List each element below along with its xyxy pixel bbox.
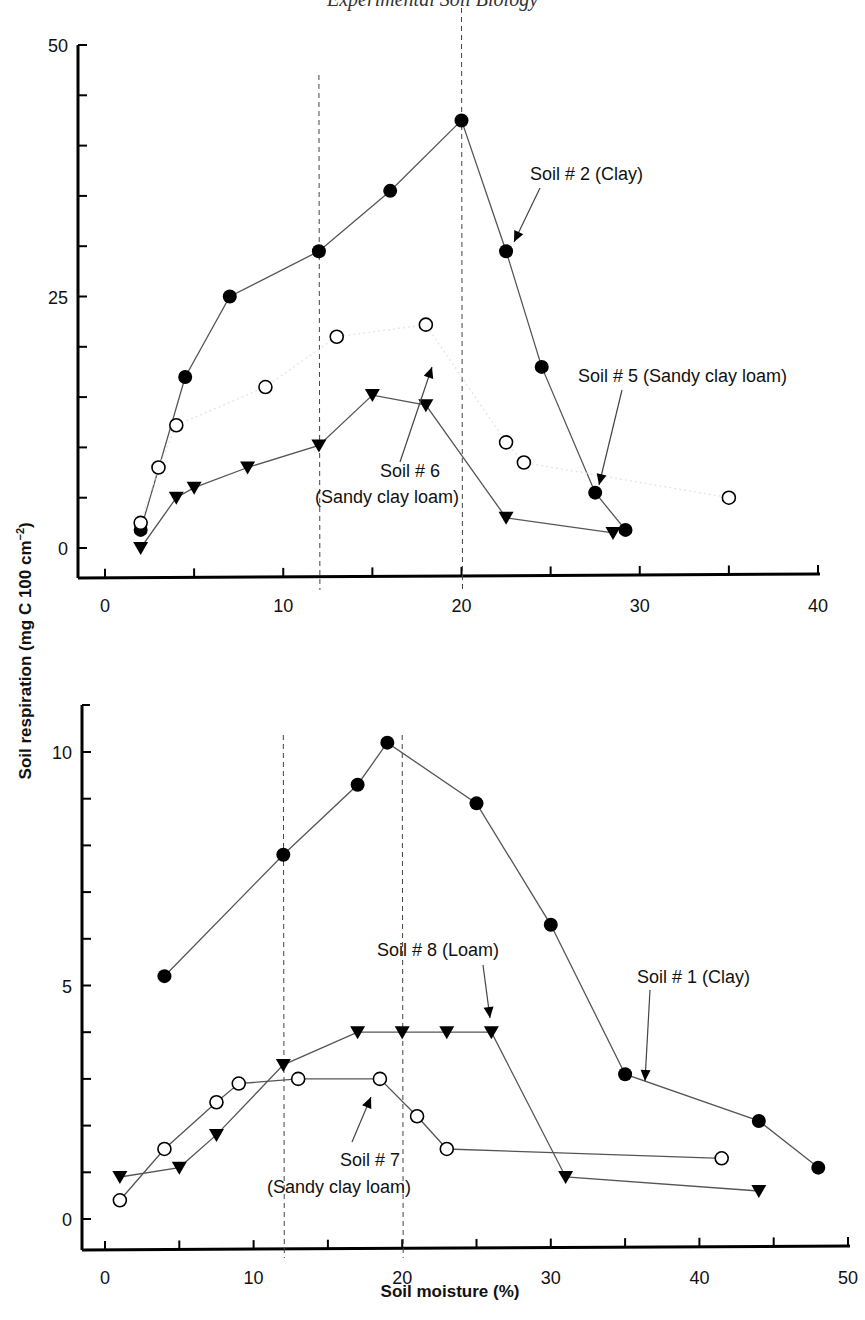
filled-circle-marker [223, 290, 237, 304]
panel-top-y-tick-label: 25 [48, 288, 68, 308]
panel-top-x-tick-label: 20 [451, 596, 471, 616]
x-axis-label: Soil moisture (%) [300, 1282, 600, 1302]
filled-circle-marker [499, 244, 513, 258]
panel-top-x-axis [78, 574, 820, 578]
open-circle-marker [440, 1142, 453, 1155]
panel-bottom-x-tick-label: 40 [689, 1268, 709, 1288]
open-circle-marker [715, 1152, 728, 1165]
figure: 02550010203040Soil # 2 (Clay)Soil # 5 (S… [0, 0, 865, 1320]
triangle-down-marker [112, 1171, 127, 1184]
filled-circle-marker [455, 113, 469, 127]
panel-bottom-annotation: Soil # 8 (Loam) [377, 940, 499, 960]
filled-circle-marker [157, 969, 171, 983]
y-axis-label: Soil respiration (mg C 100 cm−2) [14, 451, 36, 851]
panel-bottom-annotation: Soil # 1 (Clay) [637, 967, 750, 987]
filled-circle-marker [618, 1067, 632, 1081]
open-circle-marker [411, 1110, 424, 1123]
open-circle-marker [170, 419, 183, 432]
panel-top-y-tick-label: 0 [58, 539, 68, 559]
filled-circle-marker [312, 244, 326, 258]
triangle-down-marker [311, 439, 326, 452]
filled-circle-marker [380, 736, 394, 750]
panel-bottom-x-tick-label: 50 [838, 1268, 858, 1288]
panel-top-annotation: Soil # 2 (Clay) [530, 164, 643, 184]
open-circle-marker [210, 1096, 223, 1109]
arrowhead-icon [424, 367, 433, 379]
panel-bottom-series-line [120, 1032, 759, 1191]
filled-circle-marker [178, 370, 192, 384]
panel-top-y-tick-label: 50 [48, 36, 68, 56]
open-circle-marker [330, 330, 343, 343]
filled-circle-marker [811, 1161, 825, 1175]
open-circle-marker [722, 491, 735, 504]
panel-top-annotation: (Sandy clay loam) [315, 487, 459, 507]
triangle-down-marker [751, 1185, 766, 1198]
open-circle-marker [113, 1194, 126, 1207]
filled-circle-marker [383, 184, 397, 198]
arrowhead-icon [597, 473, 607, 485]
open-circle-marker [134, 516, 147, 529]
arrowhead-icon [484, 1006, 494, 1018]
triangle-down-marker [169, 492, 184, 505]
arrowhead-icon [641, 1070, 651, 1081]
open-circle-marker [259, 381, 272, 394]
panel-top-series-line [141, 395, 613, 548]
open-circle-marker [158, 1142, 171, 1155]
filled-circle-marker [588, 486, 602, 500]
panel-top-x-tick-label: 10 [273, 596, 293, 616]
open-circle-marker [373, 1072, 386, 1085]
open-circle-marker [152, 461, 165, 474]
filled-circle-marker [752, 1114, 766, 1128]
open-circle-marker [419, 318, 432, 331]
filled-circle-marker [535, 360, 549, 374]
triangle-down-marker [133, 542, 148, 555]
open-circle-marker [232, 1077, 245, 1090]
filled-circle-marker [544, 918, 558, 932]
panel-bottom-y-tick-label: 10 [52, 743, 72, 763]
open-circle-marker [500, 436, 513, 449]
panel-bottom-annotation: (Sandy clay loam) [267, 1177, 411, 1197]
annotation-arrow-line [645, 990, 650, 1081]
panel-bottom-y-tick-label: 0 [62, 1210, 72, 1230]
panel-bottom-x-tick-label: 10 [244, 1268, 264, 1288]
filled-circle-marker [618, 523, 632, 537]
panel-bottom-y-tick-label: 5 [62, 977, 72, 997]
filled-circle-marker [351, 778, 365, 792]
panel-top-x-tick-label: 30 [630, 596, 650, 616]
triangle-down-marker [240, 462, 255, 475]
filled-circle-marker [276, 848, 290, 862]
triangle-down-marker [606, 527, 621, 540]
panel-top-x-tick-label: 0 [100, 596, 110, 616]
open-circle-marker [517, 456, 530, 469]
panel-bottom-x-axis [82, 1246, 850, 1250]
annotation-arrow-line [400, 367, 432, 462]
open-circle-marker [292, 1072, 305, 1085]
panel-top-reference-line [462, 8, 463, 590]
annotation-arrow-line [599, 390, 622, 485]
panel-bottom-x-tick-label: 0 [100, 1268, 110, 1288]
panel-top-x-tick-label: 40 [808, 596, 828, 616]
panel-top-annotation: Soil # 5 (Sandy clay loam) [578, 366, 787, 386]
panel-bottom-annotation: Soil # 7 [340, 1150, 400, 1170]
filled-circle-marker [470, 796, 484, 810]
triangle-down-marker [187, 482, 202, 495]
panel-top-annotation: Soil # 6 [380, 461, 440, 481]
panel-top-reference-line [319, 75, 320, 590]
